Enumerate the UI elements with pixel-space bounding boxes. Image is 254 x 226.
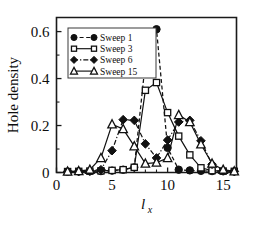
chart-legend: Sweep 1Sweep 3Sweep 6Sweep 15 (68, 28, 156, 78)
series-sweep-15 (63, 110, 238, 175)
marker-filled-circle (71, 34, 77, 40)
marker-open-square (176, 133, 182, 139)
marker-open-square (153, 79, 159, 85)
y-tick-label: 0.4 (31, 71, 50, 87)
marker-filled-diamond (108, 146, 117, 155)
marker-open-square (91, 46, 96, 51)
y-tick-label: 0.6 (31, 24, 50, 40)
x-tick-label: 15 (216, 177, 231, 193)
marker-filled-diamond (119, 115, 128, 124)
legend-label: Sweep 6 (100, 55, 133, 65)
marker-open-triangle (174, 110, 182, 118)
marker-open-square (109, 167, 115, 173)
hole-density-chart: 00.20.40.6 051015 Hole density l x Sweep… (0, 0, 254, 226)
marker-open-square (131, 164, 137, 170)
y-tick-label: 0 (42, 165, 50, 181)
marker-open-square (71, 46, 76, 51)
legend-label: Sweep 15 (100, 67, 137, 77)
x-tick-label: 10 (160, 177, 175, 193)
marker-open-square (120, 167, 126, 173)
marker-open-square (165, 110, 171, 116)
marker-open-square (142, 87, 148, 93)
marker-open-triangle (119, 124, 127, 132)
y-tick-label: 0.2 (31, 118, 50, 134)
y-axis-title-group: Hole density (5, 56, 21, 133)
marker-filled-diamond (130, 116, 139, 125)
x-tick-label: 5 (108, 177, 116, 193)
marker-open-square (187, 152, 193, 158)
marker-open-triangle (97, 153, 105, 161)
marker-filled-circle (91, 34, 97, 40)
marker-filled-circle (175, 166, 182, 173)
x-axis-title: l (141, 196, 145, 212)
y-axis-title: Hole density (5, 56, 21, 133)
marker-open-triangle (108, 120, 116, 128)
x-axis-title-subscript: x (147, 204, 153, 215)
x-axis-tick-labels: 051015 (53, 177, 231, 193)
marker-filled-diamond (163, 136, 172, 145)
y-axis-tick-labels: 00.20.40.6 (31, 24, 50, 181)
marker-filled-circle (186, 167, 193, 174)
legend-label: Sweep 3 (100, 44, 133, 54)
marker-filled-diamond (141, 140, 150, 149)
x-axis-title-group: l x (141, 196, 153, 215)
marker-open-square (198, 165, 204, 171)
figure-container: 00.20.40.6 051015 Hole density l x Sweep… (0, 0, 254, 226)
x-tick-label: 0 (53, 177, 61, 193)
legend-label: Sweep 1 (100, 33, 133, 43)
